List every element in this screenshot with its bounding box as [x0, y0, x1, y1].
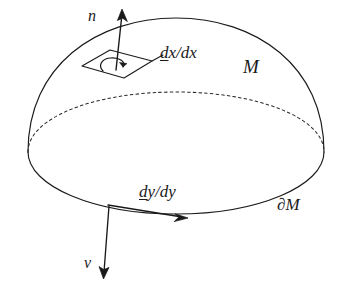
manifold-diagram: n M ∂M ν dx/dx dy/dy [0, 0, 348, 287]
surface-form-rest: x/dx [169, 43, 197, 62]
conormal-vector-arrow [99, 206, 109, 279]
conormal-vector-label: ν [84, 255, 91, 271]
boundary-form-label: dy/dy [139, 183, 176, 200]
dome-outline [28, 18, 324, 152]
normal-vector-label: n [88, 8, 96, 24]
equator-back-dashed [28, 92, 324, 152]
surface-form-label: dx/dx [160, 44, 197, 61]
surface-form-underlined-d: d [160, 43, 169, 62]
orientation-curl-icon [101, 58, 127, 71]
boundary-form-underlined-d: d [139, 182, 148, 201]
manifold-label: M [243, 57, 259, 76]
boundary-label: ∂M [277, 196, 300, 213]
boundary-form-rest: y/dy [148, 182, 176, 201]
